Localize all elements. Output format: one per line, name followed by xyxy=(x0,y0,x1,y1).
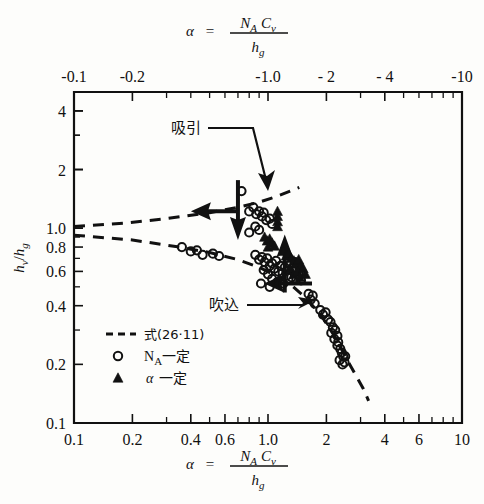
data-point-circle xyxy=(199,251,207,259)
y-axis-title: hv/hg xyxy=(11,243,30,273)
y-tick-label: 0.8 xyxy=(46,239,66,256)
curves-layer xyxy=(74,187,369,400)
arrow-left-upper xyxy=(191,202,239,220)
legend-alpha-symbol: α xyxy=(146,371,154,386)
formula-numerator: NACv xyxy=(239,448,276,467)
y-tick-label: 0.1 xyxy=(46,415,66,432)
x-tick-label: 10 xyxy=(454,431,470,448)
x-tick-label: 2 xyxy=(322,431,330,448)
formula-equals: = xyxy=(206,456,214,472)
top-tick-label: -1.0 xyxy=(255,68,280,85)
y-tick-label: 1.0 xyxy=(46,220,66,237)
top-tick-label: -10 xyxy=(451,68,472,85)
y-title-g-subscript: g xyxy=(18,243,30,249)
x-tick-label: 6 xyxy=(415,431,423,448)
legend-na-symbol: N xyxy=(144,349,154,364)
data-point-circle xyxy=(245,228,253,236)
formula-denominator: hg xyxy=(252,39,266,58)
formula-numerator: NACv xyxy=(239,15,276,34)
legend-na-suffix: 一定 xyxy=(162,348,190,364)
legend-na-subscript: A xyxy=(154,355,162,367)
formula-h-subscript: g xyxy=(259,46,265,58)
x-tick-label: 0.6 xyxy=(215,431,235,448)
data-point-circle xyxy=(257,279,265,287)
formula-h: h xyxy=(252,39,260,55)
top-tick-label: - 4 xyxy=(376,68,393,85)
annotation-label-suction: 吸引 xyxy=(171,119,201,137)
legend-label-formula: 式(26·11) xyxy=(144,327,204,342)
plot-frame xyxy=(74,92,462,423)
formula-h-subscript: g xyxy=(259,479,265,491)
axes-layer: 0.10.20.40.61.024610-0.1-0.2-1.0- 2- 4-1… xyxy=(46,68,473,448)
legend-label-na-const: NA一定 xyxy=(144,348,190,367)
formula-equals: = xyxy=(206,23,214,39)
x-tick-label: 4 xyxy=(381,431,389,448)
y-title-h2: h xyxy=(11,249,27,257)
figure-container: 0.10.20.40.61.024610-0.1-0.2-1.0- 2- 4-1… xyxy=(0,0,484,504)
y-tick-label: 0.6 xyxy=(46,263,66,280)
legend-alpha-suffix: 一定 xyxy=(159,370,187,386)
formula-alpha: α xyxy=(186,23,195,39)
bottom-axis-title: α=NACvhg xyxy=(186,448,288,491)
legend-marker-open-circle xyxy=(114,352,122,360)
x-tick-label: 1.0 xyxy=(258,431,278,448)
formula-alpha: α xyxy=(186,456,195,472)
legend-label-alpha-const: α一定 xyxy=(146,370,187,386)
legend-layer: 式(26·11)NA一定α一定 xyxy=(106,327,204,386)
y-tick-label: 0.4 xyxy=(46,298,66,315)
x-tick-label: 0.4 xyxy=(181,431,201,448)
top-axis-title: α=NACvhg xyxy=(186,15,288,58)
top-tick-label: -0.1 xyxy=(61,68,86,85)
x-tick-label: 0.2 xyxy=(122,431,142,448)
arrow-head xyxy=(230,217,246,240)
y-title-h: h xyxy=(11,265,27,273)
formula-h: h xyxy=(252,472,260,488)
arrow-head xyxy=(191,202,211,220)
y-tick-label: 2 xyxy=(58,162,66,179)
annotation-label-blowing: 吹込 xyxy=(209,296,239,314)
y-tick-label: 4 xyxy=(58,103,66,120)
scatter-plot-svg: 0.10.20.40.61.024610-0.1-0.2-1.0- 2- 4-1… xyxy=(0,0,484,504)
legend-marker-filled-triangle xyxy=(113,373,123,382)
leader-arrowhead-suction xyxy=(258,170,275,191)
y-tick-label: 0.2 xyxy=(46,356,66,373)
formula-denominator: hg xyxy=(252,472,266,491)
top-tick-label: - 2 xyxy=(318,68,335,85)
top-tick-label: -0.2 xyxy=(120,68,145,85)
leader-line-suction xyxy=(208,128,266,180)
x-tick-label: 0.1 xyxy=(64,431,84,448)
